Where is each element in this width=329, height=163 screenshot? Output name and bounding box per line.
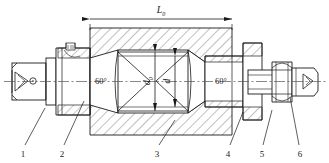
- callout-number-2: 2: [60, 149, 65, 159]
- left-center-angle-label: 60°: [95, 76, 107, 86]
- callout-leader-5: [263, 110, 272, 145]
- drawing-canvas: L0 d0 d 60° 60° 1 2 3 4 5: [0, 0, 329, 163]
- length-dimension-group: L0: [90, 4, 232, 30]
- right-socket-end: [292, 68, 318, 96]
- svg-text:d0: d0: [142, 77, 154, 85]
- callout-number-3: 3: [155, 149, 160, 159]
- callout-number-5: 5: [260, 149, 265, 159]
- right-shank: [248, 70, 274, 94]
- technical-drawing-sheet: L0 d0 d 60° 60° 1 2 3 4 5: [0, 0, 329, 163]
- callout-number-1: 1: [21, 149, 26, 159]
- hex-nut: [272, 62, 292, 102]
- outer-diameter-subscript: 0: [148, 77, 154, 80]
- callout-number-6: 6: [298, 149, 303, 159]
- callout-leader-1: [25, 108, 45, 145]
- callout-number-4: 4: [226, 149, 231, 159]
- svg-text:L0: L0: [156, 4, 166, 17]
- inner-diameter-label: d: [162, 78, 172, 83]
- length-subscript: 0: [162, 11, 165, 17]
- callout-leader-6: [290, 97, 299, 145]
- right-center-angle-label: 60°: [215, 76, 227, 86]
